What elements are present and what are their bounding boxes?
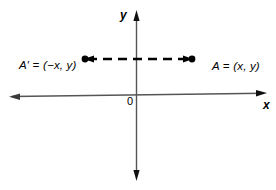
axes-and-segment-graphic bbox=[0, 0, 276, 190]
reflection-diagram: y x 0 A′ = (−x, y) A = (x, y) bbox=[0, 0, 276, 190]
y-axis-bottom-arrowhead bbox=[133, 170, 139, 181]
point-a-prime-label: A′ = (−x, y) bbox=[19, 60, 77, 72]
origin-label: 0 bbox=[127, 96, 133, 107]
point-a-prime-marker bbox=[82, 56, 89, 63]
point-a-label: A = (x, y) bbox=[212, 61, 260, 73]
y-axis-top-arrowhead bbox=[133, 10, 139, 21]
point-a-marker bbox=[189, 56, 196, 63]
y-axis-label: y bbox=[120, 9, 127, 21]
x-axis-label: x bbox=[263, 99, 270, 111]
x-axis-right-arrowhead bbox=[256, 90, 267, 96]
x-axis-line bbox=[12, 93, 264, 96]
x-axis-left-arrowhead bbox=[9, 94, 20, 100]
